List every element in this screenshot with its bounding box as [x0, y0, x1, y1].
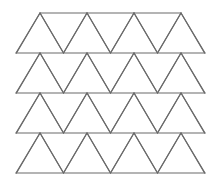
half-triangle-right-row-4	[181, 133, 205, 173]
downward-triangle-r2-c2	[87, 53, 134, 93]
downward-triangle-r3-c3	[134, 93, 181, 133]
upward-triangle-r2-c2	[64, 53, 111, 93]
half-triangle-right-row-1	[181, 13, 205, 53]
upward-triangle-r4-c2	[64, 133, 111, 173]
downward-triangle-r4-c3	[134, 133, 181, 173]
downward-triangle-r3-c1	[40, 93, 87, 133]
upward-triangle-r3-c3	[111, 93, 158, 133]
upward-triangle-r1-c1	[17, 13, 64, 53]
upward-triangle-r2-c1	[17, 53, 64, 93]
upward-triangle-r4-c4	[158, 133, 205, 173]
tessellation-group	[16, 13, 205, 173]
upward-triangle-r4-c3	[111, 133, 158, 173]
upward-triangle-r1-c3	[111, 13, 158, 53]
upward-triangle-r2-c4	[158, 53, 205, 93]
upward-triangle-r3-c4	[158, 93, 205, 133]
upward-triangle-r3-c1	[17, 93, 64, 133]
figure-canvas: Triangle tessellation pattern	[0, 0, 220, 190]
upward-triangle-r3-c2	[64, 93, 111, 133]
downward-triangle-r2-c1	[40, 53, 87, 93]
downward-triangle-r4-c2	[87, 133, 134, 173]
downward-triangle-r1-c2	[87, 13, 134, 53]
downward-triangle-r2-c3	[134, 53, 181, 93]
downward-triangle-r1-c3	[134, 13, 181, 53]
downward-triangle-r1-c1	[40, 13, 87, 53]
downward-triangle-r3-c2	[87, 93, 134, 133]
upward-triangle-r1-c4	[158, 13, 205, 53]
triangle-tessellation-figure: Triangle tessellation pattern	[0, 0, 220, 190]
downward-triangle-r4-c1	[40, 133, 87, 173]
half-triangle-right-row-3	[181, 93, 205, 133]
upward-triangle-r1-c2	[64, 13, 111, 53]
upward-triangle-r2-c3	[111, 53, 158, 93]
half-triangle-right-row-2	[181, 53, 205, 93]
upward-triangle-r4-c1	[17, 133, 64, 173]
